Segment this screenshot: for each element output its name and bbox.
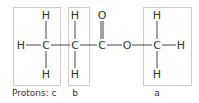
label-b: b [72,88,78,98]
chemical-structure: H C H H C H H C O O C H H H Protons: c b… [0,0,199,103]
atom-c1-h-top: H [42,9,50,22]
label-a: a [154,88,160,98]
atom-c2-h-top: H [71,9,79,22]
atom-c4: C [153,39,161,52]
atom-o-ester: O [123,39,132,52]
atom-c2: C [71,39,79,52]
atom-o-carbonyl: O [98,9,107,22]
label-protons-c: Protons: c [12,88,57,98]
atom-c2-h-bottom: H [71,68,79,81]
atom-h-right: H [177,39,185,52]
atom-c4-h-top: H [153,9,161,22]
atom-h-left: H [17,39,25,52]
atom-c4-h-bottom: H [153,68,161,81]
atom-c1-h-bottom: H [42,68,50,81]
atom-c1: C [42,39,50,52]
atom-c3: C [98,39,106,52]
